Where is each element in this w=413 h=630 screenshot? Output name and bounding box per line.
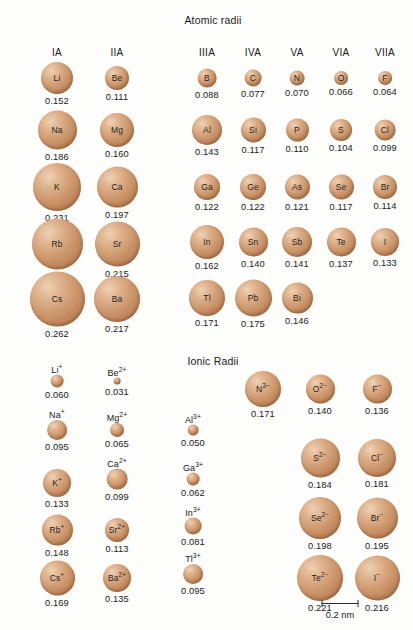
ion-charge: 3+ [193, 552, 201, 559]
scale-bar-cap-left [322, 600, 323, 607]
sphere-wrap-B: B [197, 69, 216, 88]
atom-sphere-Ga [186, 473, 199, 486]
element-node-Se: Se2−0.198 [299, 497, 341, 552]
sphere-label-N: N3− [256, 385, 270, 394]
element-node-K: K0.231 [33, 163, 81, 224]
group-header-VIA: VIA [332, 47, 349, 58]
radius-value-Cs: 0.169 [40, 599, 75, 609]
element-symbol: Se [311, 513, 322, 523]
radius-value-As: 0.121 [285, 203, 310, 213]
atom-sphere-N: N3− [245, 371, 281, 407]
sphere-wrap-In [184, 518, 201, 535]
ion-charge: − [379, 451, 383, 458]
radius-value-Al: 0.050 [181, 439, 205, 449]
ion-symbol: In [185, 508, 193, 518]
element-symbol: Te [312, 573, 321, 583]
atom-sphere-I: I [371, 228, 399, 256]
radius-value-Li: 0.060 [45, 391, 69, 401]
radius-value-I: 0.216 [355, 604, 400, 614]
ion-symbol: Na [49, 410, 61, 420]
ion-charge: + [61, 408, 65, 415]
group-header-VA: VA [290, 47, 303, 58]
sphere-label-Li: Li [54, 74, 61, 83]
sphere-label-Te: Te2− [312, 574, 329, 583]
sphere-wrap-Cs: Cs [30, 272, 85, 327]
element-symbol: Rb [51, 239, 62, 249]
element-symbol: S [338, 125, 344, 135]
radius-value-Na: 0.095 [45, 443, 69, 453]
sphere-wrap-I: I [371, 228, 399, 256]
ion-charge: − [378, 382, 382, 389]
radius-value-S: 0.184 [301, 481, 340, 491]
sphere-label-Cs: Cs [52, 295, 63, 304]
atom-sphere-K: K+ [43, 469, 71, 497]
sphere-wrap-Rb: Rb [32, 219, 83, 270]
radius-value-Be: 0.111 [105, 93, 129, 103]
atom-sphere-Bi: Bi [282, 283, 313, 314]
atom-sphere-P: P [285, 119, 308, 142]
atom-sphere-Pb: Pb [235, 280, 272, 317]
sphere-label-Bi: Bi [293, 294, 301, 303]
element-node-S: S0.104 [329, 119, 353, 154]
element-symbol: Br [381, 182, 390, 192]
radius-value-F: 0.136 [363, 407, 392, 417]
atom-sphere-Rb: Rb [32, 219, 83, 270]
sphere-label-Si: Si [249, 126, 257, 135]
sphere-label-I: I− [374, 574, 380, 583]
atom-sphere-Ba: Ba2+ [103, 564, 131, 592]
radius-value-Mg: 0.160 [100, 150, 134, 160]
sphere-label-Pb: Pb [248, 294, 259, 303]
element-symbol: Sr [109, 525, 118, 535]
ion-label-Na: Na+ [45, 411, 69, 420]
element-symbol: Ga [201, 182, 213, 192]
sphere-wrap-P: P [285, 119, 308, 142]
element-symbol: Ba [112, 294, 123, 304]
sphere-wrap-Ga: Ga [194, 174, 220, 200]
sphere-wrap-I: I− [355, 556, 400, 601]
element-node-Tl: Tl3+0.095 [181, 555, 205, 597]
ion-symbol: Mg [107, 413, 120, 423]
element-symbol: N [294, 73, 300, 83]
ion-label-Ca: Ca2+ [105, 460, 129, 469]
atom-sphere-F: F− [363, 375, 392, 404]
radius-value-Ga: 0.062 [181, 489, 205, 499]
sphere-label-Cl: Cl [381, 126, 389, 135]
sphere-label-Rb: Rb+ [50, 526, 65, 535]
atom-sphere-O: O [334, 71, 348, 85]
sphere-wrap-K: K [33, 163, 81, 211]
sphere-wrap-Sr: Sr [95, 222, 140, 267]
sphere-wrap-S: S [330, 119, 352, 141]
sphere-wrap-Cl: Cl− [358, 439, 396, 477]
radius-value-Se: 0.198 [299, 542, 341, 552]
element-node-Li: Li+0.060 [45, 366, 69, 401]
sphere-wrap-Se: Se [329, 175, 354, 200]
atom-sphere-Li [50, 375, 63, 388]
element-symbol: Ba [108, 573, 119, 583]
sphere-label-In: In [203, 238, 210, 247]
radius-value-I: 0.133 [371, 259, 399, 269]
atom-sphere-Cs: Cs [30, 272, 85, 327]
element-symbol: Cs [50, 573, 61, 583]
element-node-Ge: Ge0.122 [240, 174, 266, 213]
ion-label-Be: Be2+ [105, 369, 129, 378]
element-node-O: O0.066 [329, 71, 353, 98]
ion-charge: 2+ [119, 411, 127, 418]
atom-sphere-Mg [110, 423, 124, 437]
radius-value-Ge: 0.122 [240, 203, 266, 213]
atom-sphere-Cs: Cs+ [40, 561, 75, 596]
sphere-label-Na: Na [51, 126, 62, 135]
atom-sphere-Rb: Rb+ [42, 515, 73, 546]
atom-sphere-Sr: Sr2+ [105, 518, 129, 542]
element-node-N: N3−0.171 [245, 371, 281, 420]
ion-symbol: Ca [107, 459, 119, 469]
ion-charge: 2+ [118, 523, 126, 530]
element-node-B: B0.088 [195, 69, 219, 101]
element-symbol: Ca [111, 182, 122, 192]
sphere-wrap-C: C [244, 70, 261, 87]
atom-sphere-Tl [183, 564, 203, 584]
ion-label-Al: Al3+ [181, 416, 205, 425]
sphere-wrap-Li [50, 375, 63, 388]
sphere-wrap-Rb: Rb+ [42, 515, 73, 546]
radius-value-Sb: 0.141 [282, 260, 312, 270]
sphere-wrap-Br: Br− [357, 498, 398, 539]
